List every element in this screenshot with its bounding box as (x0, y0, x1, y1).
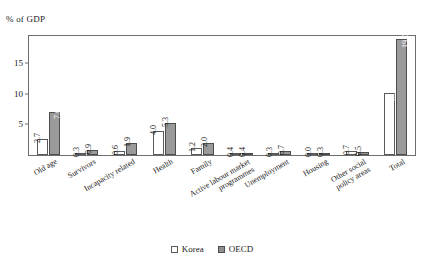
y-axis-title: % of GDP (6, 14, 45, 24)
bar-korea[interactable]: 0.6 (114, 151, 125, 155)
bar-group: 0.40.4 (230, 153, 253, 155)
bar-value-label: 2.0 (201, 137, 209, 147)
bar-value-label: 0.5 (355, 146, 363, 156)
x-axis-category-label: Housing (301, 157, 329, 178)
bar-oecd[interactable]: 19.0 (396, 39, 407, 155)
bar-value-label: 0.7 (278, 145, 286, 155)
legend-label: Korea (182, 244, 204, 254)
bar-value-label: 0.0 (305, 147, 313, 157)
bar-value-label: 0.3 (317, 147, 325, 157)
bar-oecd[interactable]: 7.0 (49, 112, 60, 155)
bar-value-label: 7.0 (54, 109, 62, 119)
y-axis-tick-label: 5 (19, 119, 24, 129)
bar-group: 0.70.5 (346, 151, 369, 155)
legend-item-oecd[interactable]: OECD (218, 244, 254, 254)
bar-value-label: 4.0 (150, 125, 158, 135)
bar-group: 10.219.0 (384, 39, 407, 155)
bar-value-label: 0.3 (266, 147, 274, 157)
bar-value-label: 2.7 (34, 133, 42, 143)
bar-value-label: 5.3 (162, 117, 170, 127)
bar-value-label: 1.9 (124, 137, 132, 147)
x-axis-category-label: Old age (33, 157, 59, 177)
legend-swatch-korea (171, 246, 178, 253)
x-axis-category-label: Health (152, 157, 175, 175)
bar-group: 1.22.0 (191, 143, 214, 155)
bar-korea[interactable]: 10.2 (384, 93, 395, 155)
bar-rect[interactable] (384, 93, 395, 155)
bar-value-label: 19.0 (402, 34, 410, 48)
bar-oecd[interactable]: 0.4 (242, 153, 253, 155)
bar-value-label: 0.3 (73, 147, 81, 157)
chart-legend: KoreaOECD (0, 244, 424, 254)
bar-value-label: 0.4 (239, 147, 247, 157)
x-axis-category-labels: Old ageSurvivorsIncapacity relatedHealth… (28, 157, 416, 219)
y-axis-tick-label: 10 (14, 89, 23, 99)
bar-korea[interactable]: 4.0 (153, 131, 164, 155)
bar-oecd[interactable]: 0.5 (358, 152, 369, 155)
bar-value-label: 1.2 (189, 142, 197, 152)
bar-value-label: 0.6 (112, 145, 120, 155)
bar-oecd[interactable]: 2.0 (203, 143, 214, 155)
bar-oecd[interactable]: 0.7 (280, 151, 291, 155)
x-axis-category-label: Survivors (66, 157, 97, 180)
bar-group: 0.61.9 (114, 143, 137, 155)
bar-korea[interactable]: 2.7 (37, 139, 48, 155)
legend-item-korea[interactable]: Korea (171, 244, 204, 254)
bar-oecd[interactable]: 0.9 (87, 150, 98, 155)
bar-korea[interactable]: 1.2 (191, 148, 202, 155)
y-axis-tick-label: 15 (14, 58, 23, 68)
bar-oecd[interactable]: 5.3 (165, 123, 176, 155)
bar-group: 0.30.9 (75, 150, 98, 155)
bar-value-label: 0.9 (85, 144, 93, 154)
x-axis-category-label: Other social policy areas (329, 157, 372, 192)
bar-group: 0.00.3 (307, 153, 330, 155)
bars-layer: 2.77.00.30.90.61.94.05.31.22.00.40.40.30… (29, 36, 415, 155)
legend-swatch-oecd (218, 246, 225, 253)
bar-oecd[interactable]: 1.9 (126, 143, 137, 155)
x-axis-category-label: Total (388, 157, 407, 173)
bar-oecd[interactable]: 0.3 (319, 153, 330, 155)
bar-group: 4.05.3 (153, 123, 176, 155)
bar-rect[interactable] (165, 123, 176, 155)
bar-group: 0.30.7 (268, 151, 291, 155)
bar-rect[interactable] (396, 39, 407, 155)
x-axis-category-label: Family (189, 157, 213, 176)
plot-area: 51015 2.77.00.30.90.61.94.05.31.22.00.40… (28, 35, 416, 156)
bar-value-label: 0.4 (227, 147, 235, 157)
bar-value-label: 0.7 (343, 145, 351, 155)
legend-label: OECD (229, 244, 254, 254)
bar-group: 2.77.0 (37, 112, 60, 155)
